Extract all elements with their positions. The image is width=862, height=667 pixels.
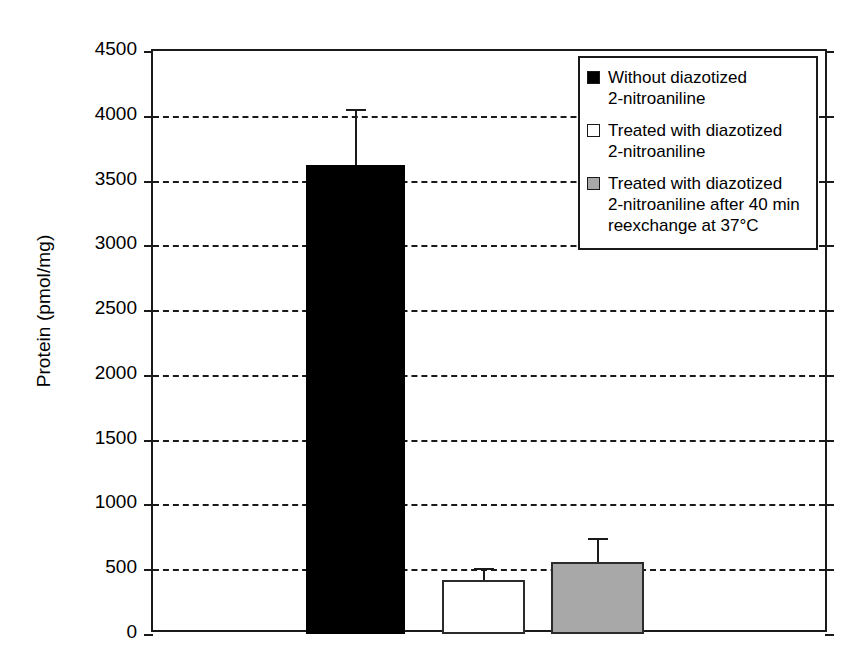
y-tick-right [825, 569, 834, 571]
legend-item-2[interactable]: Treated with diazotized 2-nitroaniline a… [587, 173, 808, 236]
y-tick-label: 3000 [47, 233, 137, 252]
legend-item-0[interactable]: Without diazotized 2-nitroaniline [587, 67, 808, 109]
y-tick-right [825, 51, 834, 53]
y-tick-right [825, 440, 834, 442]
y-tick-label: 2500 [47, 298, 137, 317]
error-bar-stem [597, 538, 599, 562]
figure-root: Protein (pmol/mg) 0500100015002000250030… [0, 0, 862, 667]
y-tick-left [144, 504, 153, 506]
y-tick-left [144, 181, 153, 183]
y-tick-left [144, 634, 153, 636]
y-tick-left [144, 116, 153, 118]
y-tick-label: 4000 [47, 104, 137, 123]
y-tick-left [144, 569, 153, 571]
bar-1[interactable] [442, 580, 525, 634]
error-bar-cap [588, 538, 608, 540]
y-tick-right [825, 375, 834, 377]
bar-2[interactable] [551, 562, 644, 634]
gridline [153, 440, 825, 442]
y-tick-left [144, 245, 153, 247]
error-bar-cap [474, 568, 494, 570]
y-tick-right [825, 181, 834, 183]
y-tick-left [144, 51, 153, 53]
y-tick-label: 2000 [47, 363, 137, 382]
legend-label-1: Treated with diazotized 2-nitroaniline [608, 120, 782, 162]
y-tick-right [825, 245, 834, 247]
y-tick-right [825, 310, 834, 312]
y-tick-right [825, 634, 834, 636]
gridline [153, 504, 825, 506]
legend-label-2: Treated with diazotized 2-nitroaniline a… [608, 173, 800, 236]
legend-swatch-black-icon [587, 71, 600, 84]
y-tick-label: 1000 [47, 492, 137, 511]
bar-0[interactable] [306, 165, 405, 634]
y-tick-label: 4500 [47, 39, 137, 58]
gridline [153, 310, 825, 312]
y-tick-left [144, 375, 153, 377]
y-tick-right [825, 116, 834, 118]
legend-box: Without diazotized 2-nitroaniline Treate… [578, 56, 818, 250]
y-tick-label: 1500 [47, 428, 137, 447]
error-bar-stem [355, 109, 357, 165]
y-tick-label: 500 [47, 557, 137, 576]
y-tick-label: 0 [47, 622, 137, 641]
gridline [153, 375, 825, 377]
error-bar-0 [306, 109, 405, 165]
y-tick-left [144, 310, 153, 312]
y-tick-label: 3500 [47, 169, 137, 188]
y-tick-left [144, 440, 153, 442]
error-bar-cap [346, 109, 366, 111]
legend-swatch-white-icon [587, 124, 600, 137]
y-tick-right [825, 504, 834, 506]
error-bar-1 [442, 568, 525, 580]
legend-swatch-gray-icon [587, 177, 600, 190]
legend-item-1[interactable]: Treated with diazotized 2-nitroaniline [587, 120, 808, 162]
legend-label-0: Without diazotized 2-nitroaniline [608, 67, 747, 109]
error-bar-2 [551, 538, 644, 562]
